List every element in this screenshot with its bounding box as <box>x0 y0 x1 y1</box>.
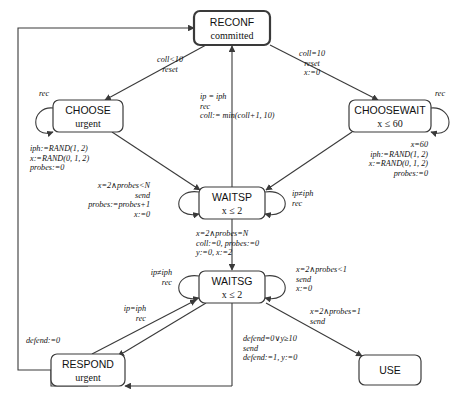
edge-label-choosewait-self: rec <box>435 89 446 98</box>
edge-reconf-to-choose <box>105 45 206 100</box>
edge-label-waitsg-to-respond: defend=0∨y≥10senddefend:=1, y:=0 <box>243 334 297 362</box>
node-title: CHOOSEWAIT <box>354 104 426 116</box>
edge-label-line: x=60 <box>410 140 428 149</box>
edge-label-waitsp-self-right: ip≠iphrec <box>292 189 313 208</box>
edge-label-line: rec <box>200 102 211 111</box>
edge-label-line: rec <box>292 199 303 208</box>
loop-choosewait-self <box>431 108 449 133</box>
node-subtitle: urgent <box>75 372 101 383</box>
node-respond[interactable]: RESPONDurgent <box>51 354 125 386</box>
node-title: RECONF <box>210 16 254 28</box>
edge-label-line: rec <box>162 278 173 287</box>
edge-label-line: y:=0, x:=2 <box>195 248 232 257</box>
edge-label-line: iph:=RAND(1, 2) <box>370 150 428 159</box>
edge-label-line: rec <box>136 314 147 323</box>
edge-label-line: defend:=1, y:=0 <box>243 353 297 362</box>
node-waitsp[interactable]: WAITSPx ≤ 2 <box>199 187 265 219</box>
edge-label-line: reset <box>162 65 178 74</box>
edge-label-line: coll:= min(coll+1, 10) <box>200 111 275 120</box>
edge-label-line: probes:=0 <box>393 169 428 178</box>
edge-label-line: send <box>310 317 326 326</box>
edge-label-line: reset <box>304 59 320 68</box>
loop-waitsp-right-self <box>265 192 285 215</box>
nodes: RECONFcommittedCHOOSEurgentCHOOSEWAITx ≤… <box>51 11 431 386</box>
node-subtitle: urgent <box>75 118 101 129</box>
node-choosewait[interactable]: CHOOSEWAITx ≤ 60 <box>349 100 431 132</box>
edge-label-line: x:=RAND(0, 1, 2) <box>29 154 89 163</box>
edge-respond-to-reconf <box>18 28 194 370</box>
edge-label-waitsp-to-waitsg: x=2∧probes=Ncoll:=0, probes:=0y:=0, x:=2 <box>195 229 259 257</box>
edge-label-line: x=2∧probes=N <box>195 229 249 238</box>
node-use[interactable]: USE <box>359 355 421 385</box>
node-title: WAITSG <box>211 275 252 287</box>
edge-label-line: ip≠iph <box>151 268 172 277</box>
edge-label-line: probes:=0 <box>29 163 64 172</box>
node-title: RESPOND <box>62 358 114 370</box>
edge-label-line: rec <box>435 89 446 98</box>
edge-label-line: iph:=RAND(1, 2) <box>30 144 88 153</box>
loop-waitsg-right-self <box>265 276 285 299</box>
edge-label-respond-to-waitsg: ip=iphrec <box>124 304 147 323</box>
edge-label-line: x:=0 <box>303 68 320 77</box>
edge-label-line: send <box>296 275 312 284</box>
node-subtitle: x ≤ 2 <box>222 205 243 216</box>
edge-label-line: ip = iph <box>200 92 226 101</box>
node-subtitle: x ≤ 2 <box>222 289 243 300</box>
edge-label-respond-to-reconf: defend:=0 <box>26 336 60 345</box>
edge-label-line: x=2∧probes=1 <box>309 307 361 316</box>
edge-label-waitsg-to-use: x=2∧probes=1send <box>309 307 361 326</box>
node-reconf[interactable]: RECONFcommitted <box>194 11 270 45</box>
node-title: USE <box>379 364 401 376</box>
edge-label-line: send <box>135 191 151 200</box>
node-subtitle: committed <box>211 30 254 41</box>
edge-label-line: probes:=probes+1 <box>87 200 150 209</box>
edge-label-line: coll:=0, probes:=0 <box>196 239 259 248</box>
edge-label-line: x:=0 <box>295 284 312 293</box>
edge-label-reconf-to-choose: coll<10reset <box>157 55 183 74</box>
edge-label-line: coll<10 <box>157 55 183 64</box>
loop-waitsp-left-self <box>179 192 199 215</box>
edge-label-line: ip=iph <box>124 304 146 313</box>
node-title: WAITSP <box>212 191 252 203</box>
edge-label-line: defend:=0 <box>26 336 60 345</box>
edge-label-waitsp-to-reconf: ip = iphreccoll:= min(coll+1, 10) <box>200 92 275 120</box>
edge-label-choose-self: rec <box>39 89 50 98</box>
edge-label-line: send <box>243 344 259 353</box>
edge-label-choose-to-waitsp: iph:=RAND(1, 2)x:=RAND(0, 1, 2)probes:=0 <box>29 144 89 172</box>
loop-choose-self <box>36 108 53 133</box>
edge-label-line: x:=0 <box>133 210 150 219</box>
loop-waitsg-left-self <box>179 276 199 299</box>
edge-label-line: defend=0∨y≥10 <box>243 334 297 343</box>
node-waitsg[interactable]: WAITSGx ≤ 2 <box>199 271 265 303</box>
edge-label-line: coll=10 <box>299 49 325 58</box>
node-choose[interactable]: CHOOSEurgent <box>53 100 123 132</box>
node-title: CHOOSE <box>65 104 111 116</box>
edge-label-line: ip≠iph <box>292 189 313 198</box>
edge-label-line: rec <box>39 89 50 98</box>
edge-label-waitsp-self: x=2∧probes<Nsendprobes:=probes+1x:=0 <box>87 181 151 219</box>
edge-label-line: x=2∧probes<1 <box>295 265 347 274</box>
state-machine-diagram: RECONFcommittedCHOOSEurgentCHOOSEWAITx ≤… <box>0 0 460 408</box>
node-subtitle: x ≤ 60 <box>377 118 403 129</box>
edge-label-line: x=2∧probes<N <box>97 181 151 190</box>
edge-label-reconf-to-choosewait: coll=10resetx:=0 <box>299 49 325 77</box>
edge-label-waitsg-self-left: ip≠iphrec <box>151 268 173 287</box>
edge-label-choosewait-to-waitsp: x=60iph:=RAND(1, 2)x:=RAND(0, 1, 2)probe… <box>368 140 428 178</box>
edge-label-line: x:=RAND(0, 1, 2) <box>368 159 428 168</box>
edge-choosewait-to-waitsp <box>266 132 352 190</box>
edge-label-waitsg-self-right: x=2∧probes<1sendx:=0 <box>295 265 347 293</box>
